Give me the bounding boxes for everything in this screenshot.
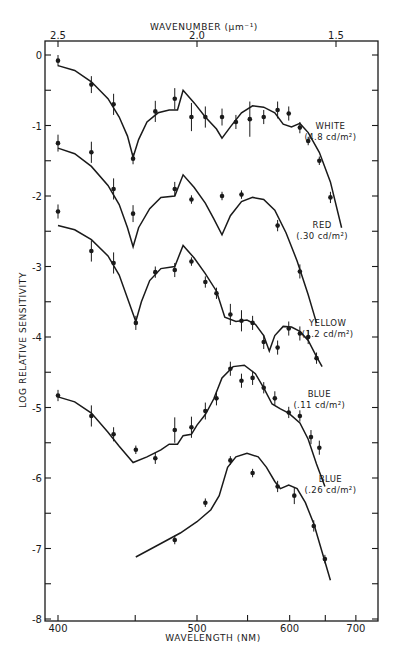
data-point [286, 410, 291, 415]
data-point [239, 378, 244, 383]
series-sublabel: (1.2 cd/m²) [302, 329, 354, 339]
data-point [111, 102, 116, 107]
data-point [228, 366, 233, 371]
data-point [275, 108, 280, 113]
data-point [172, 96, 177, 101]
data-point [56, 141, 61, 146]
series-yellow-2: YELLOW(1.2 cd/m²) [56, 204, 354, 366]
data-point [275, 345, 280, 350]
data-point [311, 524, 316, 529]
data-point [286, 111, 291, 116]
fit-curve [58, 66, 342, 228]
x-tick-label: 600 [280, 623, 299, 634]
data-point [261, 340, 266, 345]
series-layer: WHITE(4.8 cd/m²)RED(.30 cd/m²)YELLOW(1.2… [56, 55, 357, 580]
series-white-0: WHITE(4.8 cd/m²) [56, 55, 357, 228]
series-sublabel: (.26 cd/m²) [305, 485, 357, 495]
data-point [203, 115, 208, 120]
x-axis-bottom-title: WAVELENGTH (NM) [165, 633, 261, 643]
series-blue-4: BLUE(.26 cd/m²) [136, 453, 357, 580]
y-tick-label: -8 [32, 614, 42, 625]
x-tick-label: 700 [346, 623, 365, 634]
data-point [111, 432, 116, 437]
data-point [89, 82, 94, 87]
data-point [56, 58, 61, 63]
x2-tick-label: 2.5 [50, 30, 66, 41]
data-point [261, 385, 266, 390]
x-tick-label: 400 [48, 623, 67, 634]
data-point [275, 484, 280, 489]
data-point [323, 557, 328, 562]
data-point [286, 326, 291, 331]
data-point [172, 268, 177, 273]
data-point [189, 115, 194, 120]
x-axis-bottom-ticks: 400500600700 [48, 615, 365, 634]
data-point [189, 425, 194, 430]
data-point [131, 156, 136, 161]
data-point [189, 197, 194, 202]
data-point [298, 414, 303, 419]
data-point [228, 312, 233, 317]
data-point [234, 120, 239, 125]
series-label: BLUE [308, 389, 331, 399]
data-point [273, 396, 278, 401]
data-point [250, 471, 255, 476]
data-point [203, 280, 208, 285]
data-point [228, 458, 233, 463]
series-sublabel: (.30 cd/m²) [296, 231, 348, 241]
data-point [298, 269, 303, 274]
data-point [131, 211, 136, 216]
data-point [248, 117, 253, 122]
data-point [314, 356, 319, 361]
data-point [89, 414, 94, 419]
data-point [220, 115, 225, 120]
data-point [298, 125, 303, 130]
data-point [203, 500, 208, 505]
data-point [250, 376, 255, 381]
data-point [89, 249, 94, 254]
data-point [56, 209, 61, 214]
data-point [275, 223, 280, 228]
data-point [309, 435, 314, 440]
fit-curve [136, 453, 331, 580]
data-point [203, 409, 208, 414]
series-sublabel: (.11 cd/m²) [293, 400, 345, 410]
y-tick-label: -5 [32, 403, 42, 414]
fit-curve [58, 226, 322, 367]
series-label: WHITE [316, 121, 346, 131]
data-point [89, 150, 94, 155]
data-point [153, 456, 158, 461]
data-point [172, 428, 177, 433]
x-axis-top-ticks: 2.52.01.5 [50, 30, 344, 47]
y-tick-label: -6 [32, 473, 42, 484]
data-point [317, 158, 322, 163]
spectral-sensitivity-chart: 0-1-2-3-4-5-6-7-8 400500600700 2.52.01.5… [0, 0, 398, 660]
data-point [172, 538, 177, 543]
fit-curve [58, 148, 317, 323]
y-axis-title: LOG RELATIVE SENSITIVITY [18, 272, 28, 408]
y-tick-label: -7 [32, 544, 42, 555]
series-label: RED [313, 220, 332, 230]
x2-tick-label: 1.5 [328, 30, 344, 41]
x-axis-top-title: WAVENUMBER (µm⁻¹) [150, 22, 258, 32]
data-point [134, 448, 139, 453]
series-label: YELLOW [308, 318, 346, 328]
data-point [153, 109, 158, 114]
data-point [214, 396, 219, 401]
y-tick-label: -3 [32, 262, 42, 273]
data-point [292, 493, 297, 498]
data-point [239, 318, 244, 323]
data-point [328, 195, 333, 200]
data-point [111, 187, 116, 192]
data-point [220, 194, 225, 199]
data-point [239, 192, 244, 197]
data-point [153, 270, 158, 275]
series-blue-3: BLUE(.11 cd/m²) [56, 362, 346, 487]
data-point [172, 187, 177, 192]
data-point [317, 445, 322, 450]
data-point [261, 115, 266, 120]
data-point [111, 261, 116, 266]
data-point [250, 321, 255, 326]
series-label: BLUE [319, 474, 342, 484]
data-point [189, 259, 194, 264]
